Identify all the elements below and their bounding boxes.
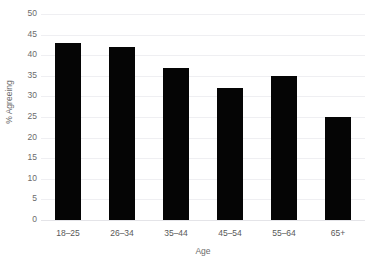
y-axis-tick-label: 45 [11, 30, 37, 39]
y-axis-tick-labels: 05101520253035404550 [7, 14, 37, 220]
y-axis-tick-label: 20 [11, 133, 37, 142]
bar[interactable] [271, 76, 297, 220]
bar[interactable] [109, 47, 135, 220]
y-axis-tick-label: 5 [11, 194, 37, 203]
y-axis-tick-label: 50 [11, 9, 37, 18]
y-axis-tick-label: 35 [11, 71, 37, 80]
y-axis-tick-label: 0 [11, 215, 37, 224]
bar[interactable] [325, 117, 351, 220]
chart-title-clipped [0, 0, 372, 3]
y-axis-tick-label: 30 [11, 91, 37, 100]
x-axis-tick-labels: 18–2526–3435–4445–5455–6465+ [41, 226, 365, 240]
bar[interactable] [163, 68, 189, 220]
x-axis-title: Age [41, 245, 365, 257]
x-axis-tick-label: 45–54 [203, 226, 257, 240]
y-axis-tick-label: 40 [11, 50, 37, 59]
x-axis-tick-label: 65+ [311, 226, 365, 240]
bar[interactable] [217, 88, 243, 220]
y-axis-tick-label: 25 [11, 112, 37, 121]
x-axis-tick-label: 26–34 [95, 226, 149, 240]
y-axis-tick-label: 15 [11, 153, 37, 162]
x-axis-tick-label: 18–25 [41, 226, 95, 240]
x-axis-tick-label: 55–64 [257, 226, 311, 240]
bar[interactable] [55, 43, 81, 220]
bar-series [41, 14, 365, 220]
y-axis-tick-label: 10 [11, 174, 37, 183]
x-axis-baseline [41, 220, 365, 221]
bar-chart: % Agreeing 05101520253035404550 18–2526–… [0, 0, 372, 269]
x-axis-tick-label: 35–44 [149, 226, 203, 240]
